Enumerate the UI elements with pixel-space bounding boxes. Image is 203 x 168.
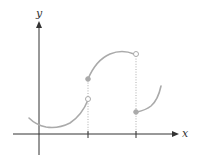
curve-piece-3	[137, 86, 161, 112]
x-axis-label: x	[182, 127, 189, 140]
filled-endpoint-piece-3	[134, 110, 139, 115]
x-axis-arrow-icon	[172, 131, 179, 137]
open-endpoint-piece-1	[86, 97, 91, 102]
curve-piece-2	[88, 52, 134, 80]
filled-endpoint-piece-2	[86, 77, 91, 82]
function-graph: x y	[0, 0, 203, 168]
open-endpoint-piece-2	[134, 52, 139, 57]
y-axis-label: y	[35, 7, 43, 20]
curve-piece-1	[29, 100, 88, 128]
y-axis-arrow-icon	[36, 21, 42, 28]
